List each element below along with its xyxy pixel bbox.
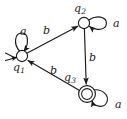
edge-q2-q3 <box>84 29 86 84</box>
automaton-graph-canvas <box>0 0 127 119</box>
edge-label-q1-q2: b <box>43 25 50 36</box>
automaton-diagram: q1 q2 q3 b b b a a a <box>0 0 127 119</box>
self-loop-label-q3: a <box>115 99 122 110</box>
start-arrow-tail <box>6 53 15 58</box>
edge-label-q3-q1: b <box>50 65 57 76</box>
state-label-q1: q1 <box>13 62 25 74</box>
state-node-q2[interactable] <box>78 17 89 28</box>
state-label-q2: q2 <box>74 3 86 15</box>
self-loop-q2 <box>88 17 106 30</box>
start-arrow <box>6 57 18 60</box>
state-label-q3: q3 <box>64 72 76 84</box>
self-loop-label-q1: a <box>20 26 27 37</box>
edge-label-q2-q3: b <box>89 52 96 63</box>
edge-q1-q2 <box>27 26 78 53</box>
self-loop-label-q2: a <box>113 18 120 29</box>
state-node-q3-inner <box>82 89 93 100</box>
state-node-q1[interactable] <box>16 50 27 61</box>
